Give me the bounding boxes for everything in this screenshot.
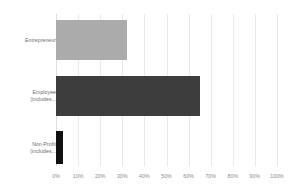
x-tick-100%: 100% — [270, 172, 283, 180]
bar-row — [56, 76, 277, 116]
bar-row — [56, 20, 277, 60]
plot-area — [56, 14, 277, 166]
bar-2 — [56, 76, 200, 116]
category-label-1: Entrepreneur — [4, 37, 56, 44]
x-tick-80%: 80% — [228, 172, 239, 180]
category-label-2: Employee (includes... — [4, 89, 56, 103]
x-tick-30%: 30% — [117, 172, 128, 180]
x-tick-70%: 70% — [205, 172, 216, 180]
bar-chart: EntrepreneurEmployee (includes...Non-Pro… — [0, 0, 291, 193]
gridline-100% — [277, 14, 278, 166]
bar-1 — [56, 20, 127, 60]
category-label-3: Non-Profit (includes... — [4, 141, 56, 155]
bar-row — [56, 131, 277, 164]
x-tick-60%: 60% — [183, 172, 194, 180]
x-tick-40%: 40% — [139, 172, 150, 180]
x-tick-50%: 50% — [161, 172, 172, 180]
x-tick-10%: 10% — [73, 172, 84, 180]
x-tick-20%: 20% — [95, 172, 106, 180]
bar-3 — [56, 131, 63, 164]
x-tick-90%: 90% — [250, 172, 261, 180]
x-tick-0%: 0% — [52, 172, 60, 180]
x-axis-tick-labels: 0%10%20%30%40%50%60%70%80%90%100% — [56, 172, 277, 182]
